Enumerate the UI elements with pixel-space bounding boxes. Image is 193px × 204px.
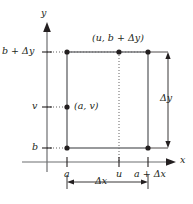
dy-arrowhead-up xyxy=(165,52,170,59)
dy-arrowhead-down xyxy=(165,141,170,148)
y-tick-label-top: b + Δy xyxy=(2,46,34,56)
y-axis-arrowhead xyxy=(43,22,51,32)
point-label-top: (u, b + Δy) xyxy=(92,33,144,43)
point-right-top xyxy=(145,49,150,54)
point-right-bottom xyxy=(145,145,150,150)
x-axis-label: x xyxy=(180,155,185,165)
x-axis-arrowhead xyxy=(166,158,176,165)
dimension-label-dx: Δx xyxy=(95,176,107,186)
coordinate-rectangle-figure: y x b + Δy v b a u a + Δx (u, b + Δy) (a… xyxy=(0,0,193,204)
x-tick-label-left: a xyxy=(64,169,70,179)
y-tick-label-bottom: b xyxy=(32,142,38,152)
point-a-b xyxy=(64,145,69,150)
point-a-top xyxy=(64,49,69,54)
point-a-v xyxy=(64,104,69,109)
dx-arrowhead-right xyxy=(141,179,148,184)
point-label-left: (a, v) xyxy=(74,101,98,111)
y-axis-label: y xyxy=(41,8,46,18)
dimension-label-dy: Δy xyxy=(160,93,172,103)
x-tick-label-mid: u xyxy=(116,169,122,179)
y-tick-label-mid: v xyxy=(32,101,37,111)
dx-arrowhead-left xyxy=(67,179,74,184)
point-u-top xyxy=(116,49,121,54)
x-tick-label-right: a + Δx xyxy=(134,169,166,179)
